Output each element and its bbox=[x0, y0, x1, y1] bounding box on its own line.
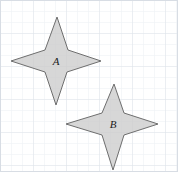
figure-svg: A B bbox=[0, 0, 178, 172]
star-a-label: A bbox=[52, 55, 60, 67]
star-b-label: B bbox=[110, 118, 117, 130]
geometry-figure-canvas: A B bbox=[0, 0, 178, 172]
graph-paper-grid bbox=[0, 0, 178, 172]
